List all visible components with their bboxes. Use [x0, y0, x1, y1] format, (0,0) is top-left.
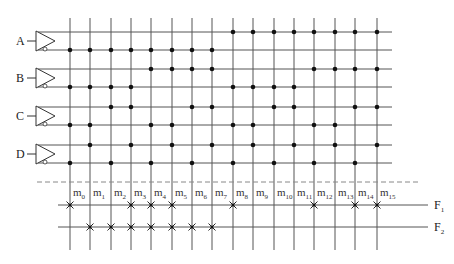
connection-dot	[312, 161, 317, 166]
connection-dot	[210, 105, 215, 110]
connection-dot	[353, 67, 358, 72]
connection-dot	[333, 67, 338, 72]
connection-dot	[312, 67, 317, 72]
minterm-label-9: m9	[256, 186, 269, 201]
input-label-A: A	[16, 34, 25, 48]
connection-dot	[149, 48, 154, 53]
connection-dot	[170, 143, 175, 148]
connection-dot	[353, 30, 358, 35]
connection-dot	[190, 105, 195, 110]
or-outputs: F1F2	[58, 198, 445, 236]
minterm-label-6: m6	[195, 186, 208, 201]
minterm-label-13: m13	[338, 186, 354, 201]
minterm-label-2: m2	[114, 186, 127, 201]
input-buffers: ABCD	[16, 31, 55, 164]
connection-dot	[292, 30, 297, 35]
minterm-columns	[70, 18, 377, 250]
connection-dot	[109, 48, 114, 53]
connection-dot	[251, 30, 256, 35]
minterm-label-14: m14	[358, 186, 374, 201]
minterm-labels: m0m1m2m3m4m5m6m7m8m9m10m11m12m13m14m15	[73, 186, 396, 201]
connection-dot	[210, 48, 215, 53]
connection-dot	[129, 143, 134, 148]
minterm-label-10: m10	[277, 186, 293, 201]
connection-dot	[333, 123, 338, 128]
minterm-label-12: m12	[317, 186, 333, 201]
connection-dot	[251, 143, 256, 148]
connection-dot	[109, 85, 114, 90]
connection-dot	[88, 143, 93, 148]
minterm-label-1: m1	[93, 186, 106, 201]
connection-dot	[272, 161, 277, 166]
connection-dot	[88, 48, 93, 53]
pla-diagram: ABCD m0m1m2m3m4m5m6m7m8m9m10m11m12m13m14…	[0, 0, 454, 264]
connection-dot	[88, 85, 93, 90]
connection-dot	[88, 123, 93, 128]
connection-dot	[292, 143, 297, 148]
minterm-label-3: m3	[134, 186, 147, 201]
connection-dot	[231, 161, 236, 166]
connection-dot	[312, 30, 317, 35]
inverter-bubble-icon	[43, 84, 47, 88]
inverter-bubble-icon	[43, 160, 47, 164]
connection-dot	[109, 161, 114, 166]
connection-dot	[170, 123, 175, 128]
connection-dot	[272, 30, 277, 35]
connection-dot	[129, 85, 134, 90]
connection-dot	[375, 105, 380, 110]
output-label-F1: F1	[434, 198, 445, 214]
connection-dot	[231, 85, 236, 90]
connection-dot	[231, 30, 236, 35]
connection-dot	[170, 48, 175, 53]
connection-dot	[170, 67, 175, 72]
inverter-bubble-icon	[43, 122, 47, 126]
connection-dot	[272, 105, 277, 110]
connection-dot	[190, 67, 195, 72]
connection-dot	[68, 85, 73, 90]
connection-dot	[251, 123, 256, 128]
connection-dot	[149, 123, 154, 128]
minterm-label-4: m4	[154, 186, 167, 201]
connection-dot	[68, 123, 73, 128]
connection-dot	[375, 30, 380, 35]
connection-dot	[68, 48, 73, 53]
connection-dot	[129, 48, 134, 53]
minterm-label-15: m15	[380, 186, 396, 201]
connection-dot	[333, 30, 338, 35]
connection-dot	[251, 85, 256, 90]
input-label-D: D	[16, 147, 25, 161]
minterm-label-8: m8	[236, 186, 249, 201]
connection-dot	[109, 105, 114, 110]
connection-dot	[149, 67, 154, 72]
minterm-label-7: m7	[215, 186, 228, 201]
minterm-label-5: m5	[175, 186, 188, 201]
minterm-label-11: m11	[297, 186, 313, 201]
connection-dot	[272, 85, 277, 90]
connection-dot	[129, 105, 134, 110]
inverter-bubble-icon	[43, 47, 47, 51]
connection-dot	[375, 143, 380, 148]
connection-dot	[190, 48, 195, 53]
output-label-F2: F2	[434, 220, 445, 236]
connection-dot	[210, 67, 215, 72]
input-label-B: B	[16, 71, 24, 85]
input-label-C: C	[16, 109, 24, 123]
connection-dot	[375, 67, 380, 72]
connection-dot	[68, 161, 73, 166]
connection-dot	[149, 161, 154, 166]
connection-dot	[292, 85, 297, 90]
connection-dot	[292, 105, 297, 110]
connection-dot	[353, 161, 358, 166]
connection-dot	[333, 143, 338, 148]
minterm-label-0: m0	[73, 186, 86, 201]
connection-dot	[353, 105, 358, 110]
connection-dot	[190, 161, 195, 166]
connection-dot	[231, 123, 236, 128]
connection-dot	[312, 123, 317, 128]
connection-dot	[210, 143, 215, 148]
